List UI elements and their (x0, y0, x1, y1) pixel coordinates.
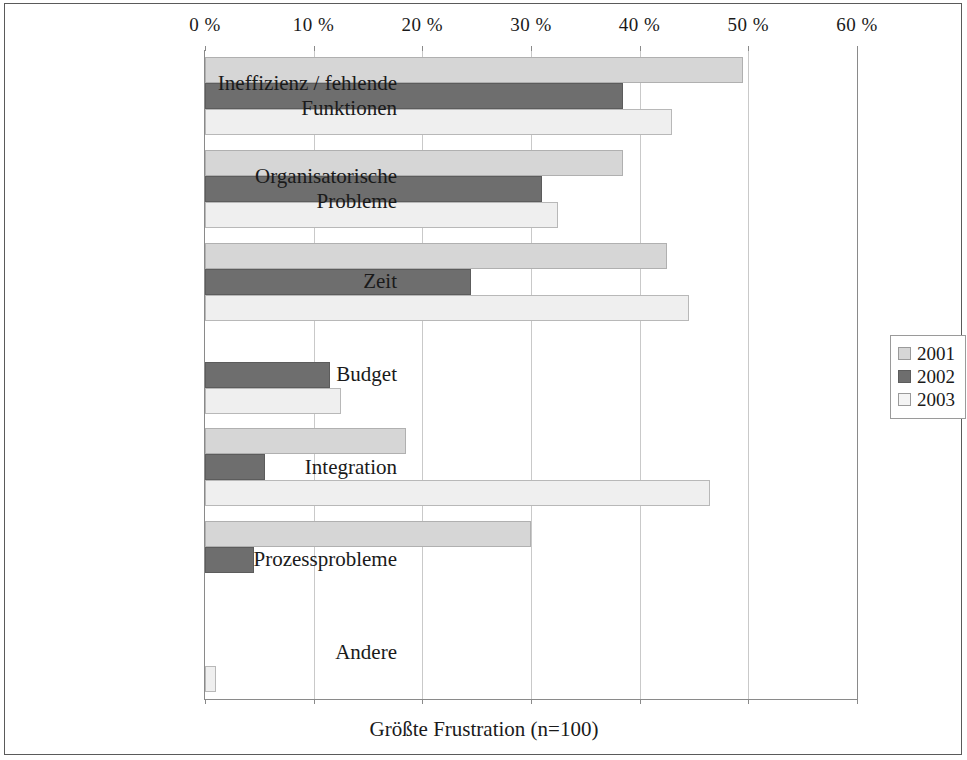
figure-frame: 0 %10 %20 %30 %40 %50 %60 % Ineffizienz … (4, 3, 962, 755)
x-tick (748, 699, 749, 704)
legend-label: 2003 (917, 390, 955, 409)
x-tick (314, 699, 315, 704)
category-label: Integration (75, 455, 405, 480)
category-label: Prozessprobleme (75, 547, 405, 572)
legend-item-2003: 2003 (898, 388, 958, 411)
legend-swatch-icon (898, 370, 911, 383)
x-tick (422, 699, 423, 704)
x-tick-label: 60 % (836, 14, 878, 36)
legend-item-2001: 2001 (898, 342, 958, 365)
x-tick (205, 699, 206, 704)
category-label: Andere (75, 640, 405, 665)
legend-swatch-icon (898, 393, 911, 406)
x-tick (857, 699, 858, 704)
x-tick (857, 46, 858, 51)
x-tick-label: 30 % (510, 14, 552, 36)
legend-label: 2002 (917, 367, 955, 386)
category-labels: Ineffizienz / fehlende FunktionenOrganis… (65, 50, 405, 699)
legend: 200120022003 (890, 335, 966, 419)
x-tick-label: 0 % (189, 14, 221, 36)
category-label: Ineffizienz / fehlende Funktionen (75, 71, 405, 121)
x-tick (640, 699, 641, 704)
x-tick-label: 20 % (402, 14, 444, 36)
legend-label: 2001 (917, 344, 955, 363)
legend-swatch-icon (898, 347, 911, 360)
x-tick (748, 46, 749, 51)
bar-chart: 0 %10 %20 %30 %40 %50 %60 % Ineffizienz … (5, 4, 963, 756)
x-tick (531, 699, 532, 704)
x-tick (640, 46, 641, 51)
category-label: Budget (75, 362, 405, 387)
plot-area: 0 %10 %20 %30 %40 %50 %60 % Ineffizienz … (204, 50, 857, 700)
category-label: Zeit (75, 269, 405, 294)
x-axis-title: Größte Frustration (n=100) (5, 717, 963, 742)
legend-entries: 200120022003 (898, 342, 958, 411)
x-tick (531, 46, 532, 51)
gridline (857, 50, 858, 699)
category-label: Organisatorische Probleme (75, 164, 405, 214)
x-tick (422, 46, 423, 51)
x-tick-label: 10 % (293, 14, 335, 36)
x-tick-label: 50 % (728, 14, 770, 36)
legend-item-2002: 2002 (898, 365, 958, 388)
x-tick-label: 40 % (619, 14, 661, 36)
